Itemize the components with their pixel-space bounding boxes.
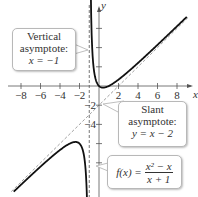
y-axis-label: y — [100, 0, 106, 11]
curve-right-branch — [90, 0, 187, 88]
callout-line: asymptote: — [13, 42, 75, 54]
function-callout: f(x) = x² − x x + 1 — [107, 155, 182, 189]
callout-equation: y = x − 2 — [119, 127, 186, 139]
callout-line: Vertical — [13, 30, 75, 42]
fraction-numerator: x² − x — [145, 160, 173, 173]
vertical-asymptote-callout: Vertical asymptote: x = −1 — [12, 28, 76, 71]
vertical-callout-pointer — [74, 44, 88, 54]
x-tick-label: −4 — [54, 89, 66, 101]
x-tick-label: 2 — [116, 89, 122, 101]
function-lhs: f(x) = — [116, 166, 141, 178]
callout-line: Slant — [119, 103, 186, 115]
x-tick-label: 8 — [174, 89, 180, 101]
x-tick-label: 4 — [135, 89, 141, 101]
function-fraction: x² − x x + 1 — [145, 160, 173, 185]
y-tick-label: −4 — [84, 118, 96, 130]
x-tick-label: 6 — [155, 89, 161, 101]
x-axis-label: x — [192, 88, 198, 100]
fraction-denominator: x + 1 — [145, 173, 173, 185]
slant-asymptote-callout: Slant asymptote: y = x − 2 — [118, 101, 187, 147]
y-tick-label: −2 — [84, 99, 96, 111]
x-tick-label: −6 — [35, 89, 47, 101]
callout-line: asymptote: — [119, 115, 186, 127]
curve-left-branch — [14, 142, 89, 197]
callout-equation: x = −1 — [13, 54, 75, 66]
x-tick-label: −8 — [15, 89, 27, 101]
